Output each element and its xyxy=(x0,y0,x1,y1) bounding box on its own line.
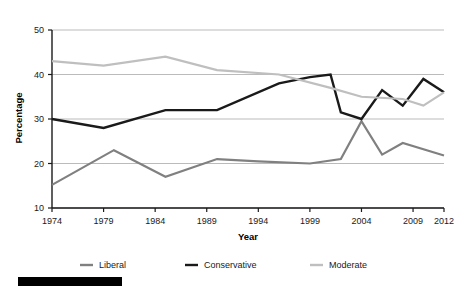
data-series-group xyxy=(52,57,444,185)
x-tick-label: 2012 xyxy=(434,216,454,226)
series-line-moderate xyxy=(52,57,444,106)
gridline-group xyxy=(52,30,444,208)
x-tick-label: 1994 xyxy=(248,216,268,226)
series-line-liberal xyxy=(52,121,444,185)
x-tick-label: 1999 xyxy=(300,216,320,226)
series-line-conservative xyxy=(52,75,444,128)
y-tick-label: 20 xyxy=(34,159,44,169)
x-tick-label: 1989 xyxy=(197,216,217,226)
y-tick-label: 10 xyxy=(34,203,44,213)
chart-canvas: 1020304050 19741979198419891994199920042… xyxy=(0,0,475,291)
y-axis-title: Percentage xyxy=(13,92,24,143)
y-tick-label: 40 xyxy=(34,70,44,80)
y-tick-label: 30 xyxy=(34,114,44,124)
legend-label-liberal: Liberal xyxy=(99,260,126,270)
tickmark-group xyxy=(48,30,444,212)
x-tick-label: 1984 xyxy=(145,216,165,226)
legend-label-conservative: Conservative xyxy=(204,260,257,270)
x-axis-tick-labels: 197419791984198919941999200420092012 xyxy=(42,216,454,226)
legend-label-moderate: Moderate xyxy=(329,260,367,270)
y-axis-tick-labels: 1020304050 xyxy=(34,25,44,213)
line-chart-figure: 1020304050 19741979198419891994199920042… xyxy=(0,0,475,291)
x-tick-label: 1974 xyxy=(42,216,62,226)
x-axis-title: Year xyxy=(238,231,258,242)
chart-legend: LiberalConservativeModerate xyxy=(80,260,367,270)
y-tick-label: 50 xyxy=(34,25,44,35)
x-tick-label: 1979 xyxy=(94,216,114,226)
x-tick-label: 2009 xyxy=(403,216,423,226)
redaction-bar xyxy=(18,277,122,286)
x-tick-label: 2004 xyxy=(351,216,371,226)
